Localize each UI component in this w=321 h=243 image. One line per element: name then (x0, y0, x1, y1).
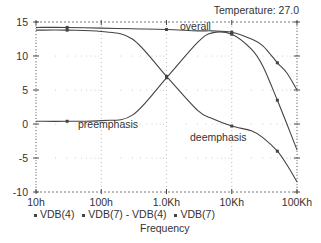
svg-text:1.0Kh: 1.0Kh (153, 196, 181, 208)
legend: VDB(4) VDB(7) - VDB(4) VDB(7) (34, 208, 220, 220)
svg-text:5: 5 (22, 84, 28, 96)
svg-text:10h: 10h (27, 196, 45, 208)
svg-text:-5: -5 (19, 152, 28, 164)
chart-plot: 151050-5-1010h100h1.0Kh10Kh100Khoverallp… (0, 0, 321, 243)
svg-text:preemphasis: preemphasis (78, 118, 138, 130)
svg-text:100h: 100h (90, 196, 114, 208)
legend-marker-icon (34, 214, 37, 217)
x-axis-label: Frequency (140, 222, 190, 234)
svg-text:15: 15 (16, 16, 28, 28)
svg-text:100Kh: 100Kh (282, 196, 313, 208)
svg-text:-10: -10 (13, 186, 28, 198)
legend-item-vdb7: VDB(7) (174, 208, 214, 220)
svg-text:10: 10 (16, 50, 28, 62)
legend-item-vdb4: VDB(4) (34, 208, 74, 220)
legend-item-vdb7-minus-vdb4: VDB(7) - VDB(4) (82, 208, 166, 220)
svg-text:0: 0 (22, 118, 28, 130)
svg-text:overall: overall (180, 20, 211, 32)
svg-text:deemphasis: deemphasis (190, 131, 247, 143)
legend-marker-icon (82, 214, 85, 217)
svg-text:10Kh: 10Kh (219, 196, 244, 208)
temperature-annotation: Temperature: 27.0 (214, 4, 299, 16)
legend-marker-icon (174, 214, 177, 217)
